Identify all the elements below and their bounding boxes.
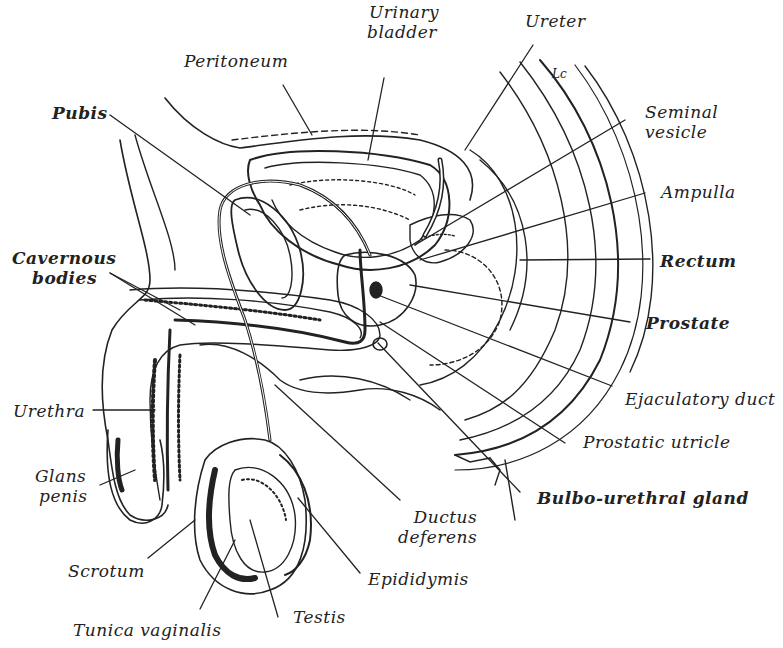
label-cavernous-bodies-line1: Cavernous bbox=[12, 248, 116, 268]
label-cavernous-bodies-line2: bodies bbox=[12, 268, 116, 288]
label-glans-penis-line1: Glans bbox=[35, 466, 88, 486]
label-ampulla: Ampulla bbox=[661, 182, 736, 202]
label-ductus-deferens-line1: Ductus bbox=[398, 507, 477, 527]
label-testis: Testis bbox=[293, 607, 346, 627]
rectum-wall bbox=[420, 150, 517, 385]
label-ductus-deferens: Ductus deferens bbox=[398, 507, 477, 547]
seminal-vesicle bbox=[410, 215, 473, 263]
label-scrotum: Scrotum bbox=[68, 561, 145, 581]
sacrum-outline bbox=[455, 60, 618, 455]
label-cavernous-bodies: Cavernous bodies bbox=[12, 248, 116, 288]
peritoneum-line bbox=[165, 98, 473, 200]
svg-text:Lc: Lc bbox=[551, 67, 567, 81]
label-epididymis: Epididymis bbox=[368, 569, 469, 589]
label-urinary-bladder-line1: Urinary bbox=[367, 2, 439, 22]
label-prostatic-utricle: Prostatic utricle bbox=[583, 432, 731, 452]
label-ureter: Ureter bbox=[525, 11, 586, 31]
label-seminal-vesicle: Seminal vesicle bbox=[645, 102, 718, 142]
label-prostate: Prostate bbox=[646, 313, 730, 333]
label-urethra: Urethra bbox=[13, 401, 85, 421]
label-rectum: Rectum bbox=[660, 251, 737, 271]
label-peritoneum: Peritoneum bbox=[184, 51, 288, 71]
label-ductus-deferens-line2: deferens bbox=[398, 527, 477, 547]
label-tunica-vaginalis: Tunica vaginalis bbox=[73, 620, 221, 640]
urinary-bladder bbox=[248, 151, 449, 270]
body-outline bbox=[102, 140, 168, 520]
label-bulbo-urethral-gland: Bulbo-urethral gland bbox=[537, 488, 749, 508]
label-glans-penis-line2: penis bbox=[35, 486, 88, 506]
label-seminal-vesicle-line2: vesicle bbox=[645, 122, 718, 142]
label-seminal-vesicle-line1: Seminal bbox=[645, 102, 718, 122]
label-pubis: Pubis bbox=[52, 103, 108, 123]
label-glans-penis: Glans penis bbox=[35, 466, 88, 506]
label-ejaculatory-duct: Ejaculatory duct bbox=[625, 389, 775, 409]
label-urinary-bladder-line2: bladder bbox=[367, 22, 439, 42]
label-urinary-bladder: Urinary bladder bbox=[367, 2, 439, 42]
anatomy-diagram: Lc bbox=[0, 0, 783, 648]
